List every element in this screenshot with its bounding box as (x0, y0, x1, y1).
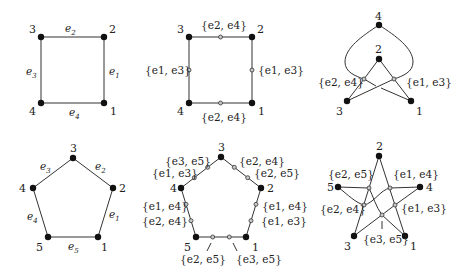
set-label-bottom: {e2, e4} (201, 111, 247, 124)
set-label-e2e5-bottom: {e2, e5} (180, 253, 226, 266)
vertex-2 (110, 185, 116, 191)
subdivision-vertex-right (250, 68, 254, 72)
vertex-label-5: 5 (327, 181, 334, 194)
subdivision-vertex (249, 219, 253, 223)
vertex-label-1: 1 (110, 105, 117, 118)
panel-pentagram: 2 4 1 3 5 {e2, e5} {e1, e4} {e2, e4} {e1… (320, 140, 447, 253)
vertex-3 (38, 34, 44, 40)
pointer-line-e2e5 (207, 243, 211, 251)
set-label-e1e3-right: {e1, e3} (261, 215, 307, 228)
subdivision-vertex (227, 235, 231, 239)
vertex-label-2: 2 (376, 140, 383, 153)
vertex-label-4: 4 (170, 182, 177, 195)
subdivision-vertex (211, 235, 215, 239)
vertex-label-1: 1 (101, 241, 108, 254)
set-label-e1e4: {e1, e4} (393, 168, 439, 181)
vertex-1 (243, 234, 249, 240)
vertex-2 (101, 34, 107, 40)
subdivision-vertex (254, 202, 258, 206)
edge-label-e2: e2 (95, 160, 106, 175)
subdivision-vertex-bottom (219, 101, 223, 105)
vertex-label-2: 2 (267, 182, 274, 195)
panel-pentagon: 1 2 3 4 5 e1 e2 e3 e4 e5 (19, 142, 126, 255)
svg-text:e3: e3 (26, 65, 37, 80)
edge-label-e3: e3 (26, 65, 37, 80)
panel-pentagon-subdivided: 1 2 3 4 5 {e3, e5} {e1, e3} {e2, e4} {e2… (142, 141, 308, 266)
vertex-3 (218, 154, 224, 160)
vertex-label-3: 3 (344, 240, 351, 253)
edge-label-e1: e1 (109, 65, 120, 80)
vertex-label-4: 4 (19, 182, 26, 195)
set-label-left: {e1, e3} (145, 64, 191, 77)
svg-text:e1: e1 (109, 65, 120, 80)
set-label-e1e3: {e1, e3} (401, 202, 447, 215)
panel-square-folded: 4 2 3 1 {e2, e4} {e1, e3} (318, 10, 452, 118)
edge-label-e4: e4 (69, 106, 80, 121)
vertex-label-1: 1 (410, 240, 417, 253)
vertex-1 (249, 100, 255, 106)
vertex-4 (417, 184, 423, 190)
vertex-label-3: 3 (218, 141, 225, 154)
svg-text:e2: e2 (95, 160, 106, 175)
vertex-label-2: 2 (375, 43, 382, 56)
vertex-2 (249, 34, 255, 40)
vertex-5 (45, 234, 51, 240)
set-label-e2e4-left: {e2, e4} (142, 215, 188, 228)
vertex-2 (376, 56, 382, 62)
vertex-4 (178, 185, 184, 191)
square-edges (189, 37, 252, 103)
vertex-2 (376, 153, 382, 159)
edge-label-e5: e5 (68, 240, 79, 255)
pointer-line-e3e5 (233, 243, 237, 251)
set-label-e1e4-left: {e1, e4} (142, 200, 188, 213)
figure-canvas: 1 2 3 4 e1 e2 e3 e4 1 2 3 4 {e2, e4} {e2 (0, 0, 461, 279)
svg-text:e4: e4 (27, 210, 38, 225)
edge-label-e1: e1 (109, 208, 120, 223)
edge-label-e3: e3 (40, 160, 51, 175)
edge-2-right (379, 59, 394, 79)
vertex-label-4: 4 (29, 105, 36, 118)
set-label-top: {e2, e4} (201, 19, 247, 32)
subdivision-vertex (246, 176, 250, 180)
vertex-label-3: 3 (336, 105, 343, 118)
edge-label-e4: e4 (27, 210, 38, 225)
subdivision-vertex-e1e4 (388, 186, 392, 190)
edge-label-e2: e2 (65, 22, 76, 37)
edge-4-left (345, 25, 379, 79)
edge-4-B (390, 187, 420, 188)
subdivision-vertex (232, 165, 236, 169)
vertex-3 (186, 34, 192, 40)
subdivision-vertex-e2e5 (367, 186, 371, 190)
vertex-label-2: 2 (257, 23, 264, 36)
vertex-label-5: 5 (36, 241, 43, 254)
subdivision-vertex-e3e5 (380, 213, 384, 217)
edge-4-right (379, 25, 413, 79)
panel-square-subdivided: 1 2 3 4 {e2, e4} {e2, e4} {e1, e3} {e1, … (145, 19, 304, 124)
edge-2-left (364, 59, 379, 79)
set-label-e2e4: {e2, e4} (320, 203, 366, 216)
square-edges (41, 37, 104, 103)
set-label-e1e3-upper: {e1, e3} (152, 167, 198, 180)
vertex-5 (193, 234, 199, 240)
set-label-right: {e1, e3} (406, 76, 452, 89)
set-label-e3e5: {e3, e5} (363, 233, 409, 246)
vertex-1 (95, 234, 101, 240)
vertex-label-4: 4 (177, 105, 184, 118)
vertex-5 (335, 184, 341, 190)
vertex-4 (186, 100, 192, 106)
vertex-4 (30, 185, 36, 191)
set-label-e3e5-bottom: {e3, e5} (236, 253, 282, 266)
vertex-2 (258, 185, 264, 191)
svg-text:e4: e4 (69, 106, 80, 121)
panel-square: 1 2 3 4 e1 e2 e3 e4 (26, 22, 120, 121)
subdivision-vertex-right (392, 77, 396, 81)
vertex-label-2: 2 (119, 182, 126, 195)
vertex-3 (70, 155, 76, 161)
svg-text:e5: e5 (68, 240, 79, 255)
vertex-3 (344, 98, 350, 104)
edge-5-A (338, 187, 369, 188)
subdivision-vertex-e1e3 (393, 203, 397, 207)
vertex-label-1: 1 (416, 105, 423, 118)
vertex-label-2: 2 (109, 23, 116, 36)
vertex-label-1: 1 (258, 105, 265, 118)
